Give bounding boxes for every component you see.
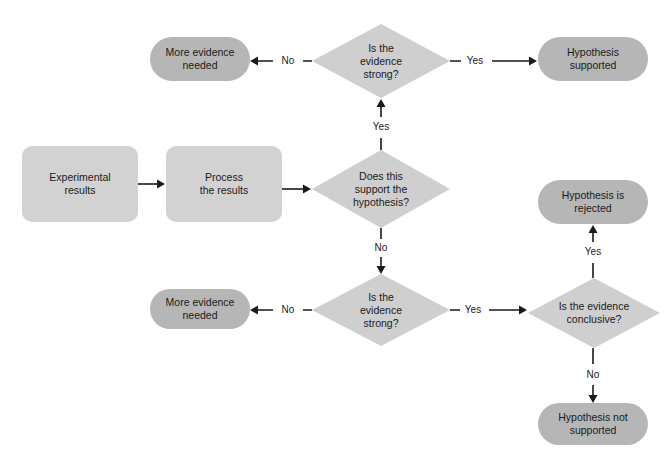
- edge-arrow-edge-strong-bottom-to-more-evidence: [250, 306, 258, 315]
- edge-arrow-edge-strong-bottom-to-conclusive: [519, 306, 527, 315]
- node-experimental-results[interactable]: [22, 146, 138, 222]
- edge-label-edge-strong-bottom-to-more-evidence: No: [282, 304, 295, 316]
- edge-label-edge-support-hypothesis-yes-up: Yes: [373, 121, 389, 133]
- shapes-layer: [22, 24, 660, 445]
- edge-label-edge-conclusive-yes-up: Yes: [585, 246, 601, 258]
- node-does-this-support-the-hypothesis[interactable]: [312, 150, 450, 228]
- node-hypothesis-supported[interactable]: [538, 37, 648, 81]
- edge-label-edge-strong-top-to-more-evidence: No: [282, 55, 295, 67]
- edge-arrow-edge-conclusive-yes-up: [589, 225, 598, 233]
- edge-label-edge-strong-top-to-hypothesis-supported: Yes: [467, 55, 483, 67]
- flowchart-canvas: More evidence neededIs the evidence stro…: [0, 0, 672, 460]
- edge-arrow-edge-conclusive-no-down: [589, 395, 598, 403]
- flowchart-svg: [0, 0, 672, 460]
- node-hypothesis-not-supported[interactable]: [538, 403, 648, 445]
- edges-layer: [138, 57, 598, 404]
- edge-label-edge-conclusive-no-down: No: [587, 369, 600, 381]
- edge-arrow-edge-process-to-decision: [303, 185, 311, 194]
- node-is-the-evidence-strong-top[interactable]: [312, 24, 450, 98]
- node-is-the-evidence-strong-bottom[interactable]: [312, 274, 450, 346]
- edge-arrow-edge-support-hypothesis-no-down: [377, 266, 386, 274]
- node-more-evidence-needed-bottom[interactable]: [150, 289, 250, 329]
- edge-label-edge-support-hypothesis-no-down: No: [375, 242, 388, 254]
- node-is-the-evidence-conclusive[interactable]: [528, 278, 660, 348]
- edge-arrow-edge-strong-top-to-hypothesis-supported: [529, 57, 537, 66]
- node-hypothesis-is-rejected[interactable]: [538, 180, 648, 224]
- edge-arrow-edge-strong-top-to-more-evidence: [250, 57, 258, 66]
- edge-arrow-edge-experimental-to-process: [157, 180, 165, 189]
- edge-label-edge-strong-bottom-to-conclusive: Yes: [465, 304, 481, 316]
- node-process-the-results[interactable]: [166, 146, 282, 222]
- node-more-evidence-needed-top[interactable]: [150, 37, 250, 81]
- edge-arrow-edge-support-hypothesis-yes-up: [377, 99, 386, 107]
